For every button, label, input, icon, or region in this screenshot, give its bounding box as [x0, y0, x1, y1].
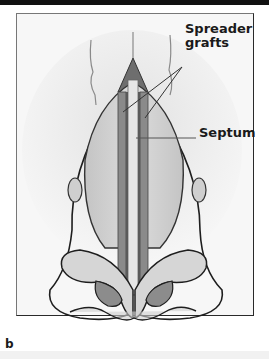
spreader-graft-right	[140, 92, 148, 292]
label-spreader-line1: Spreader	[185, 22, 252, 36]
label-spreader-grafts: Spreader grafts	[185, 22, 252, 50]
sesamoid-left	[68, 178, 82, 202]
septum	[128, 80, 138, 295]
label-septum: Septum	[199, 126, 256, 140]
spreader-graft-left	[118, 92, 126, 292]
panel-letter: b	[5, 337, 14, 351]
nose-anatomy-illustration	[0, 0, 269, 359]
bottom-strip	[0, 351, 269, 359]
label-spreader-line2: grafts	[185, 36, 252, 50]
sesamoid-right	[192, 178, 206, 202]
